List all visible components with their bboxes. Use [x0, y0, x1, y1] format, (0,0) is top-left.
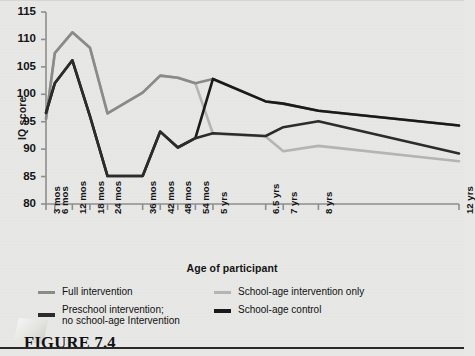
- legend-label: School-age control: [238, 304, 321, 315]
- x-axis-tick-label: 6 mos: [59, 186, 70, 214]
- chart-plot-area: IQ score 80859095100105110115 3 mos6 mos…: [0, 0, 464, 270]
- legend-label: Preschool intervention; no school-age In…: [62, 304, 180, 327]
- y-axis-tick-label: 115: [6, 5, 36, 17]
- y-axis-tick-label: 90: [6, 142, 36, 154]
- x-axis-tick-label: 12 mos: [77, 181, 88, 214]
- legend-item: School-age control: [214, 304, 321, 315]
- y-axis-tick-label: 95: [6, 115, 36, 127]
- legend-item: Full intervention: [38, 286, 133, 297]
- y-axis-tick-label: 85: [6, 170, 36, 182]
- x-axis-tick-label: 7 yrs: [288, 192, 299, 214]
- legend-label: School-age intervention only: [238, 286, 364, 297]
- x-axis-tick-label: 12 yrs: [464, 186, 475, 214]
- x-axis-tick-label: 36 mos: [147, 181, 158, 214]
- legend-color-swatch: [214, 291, 231, 294]
- x-axis-tick-label: 24 mos: [112, 181, 123, 214]
- chart-svg: [0, 0, 464, 270]
- x-axis-tick-label: 5 yrs: [218, 192, 229, 214]
- legend-color-swatch: [214, 309, 231, 313]
- x-axis-title: Age of participant: [0, 262, 464, 274]
- legend-color-swatch: [38, 313, 55, 317]
- x-axis-tick-label: 54 mos: [200, 181, 211, 214]
- legend-color-swatch: [38, 291, 55, 294]
- x-axis-tick-label: 42 mos: [165, 181, 176, 214]
- figure-caption: FIGURE 7.4: [24, 333, 116, 353]
- x-axis-tick-label: 48 mos: [182, 181, 193, 214]
- y-axis-tick-label: 105: [6, 60, 36, 72]
- x-axis-tick-label: 8 yrs: [323, 192, 334, 214]
- y-axis-tick-label: 110: [6, 32, 36, 44]
- chart-series-line: [46, 32, 459, 125]
- y-axis-tick-label: 100: [6, 87, 36, 99]
- chart-series-line: [46, 60, 459, 176]
- x-axis-tick-label: 18 mos: [95, 181, 106, 214]
- legend-item: School-age intervention only: [214, 286, 364, 297]
- caption-rule: [0, 347, 464, 349]
- legend-label: Full intervention: [62, 286, 133, 297]
- legend-item: Preschool intervention; no school-age In…: [38, 304, 180, 327]
- chart-legend: Full interventionSchool-age intervention…: [0, 284, 464, 332]
- y-axis-tick-label: 80: [6, 197, 36, 209]
- x-axis-tick-label: 6.5 yrs: [270, 184, 281, 214]
